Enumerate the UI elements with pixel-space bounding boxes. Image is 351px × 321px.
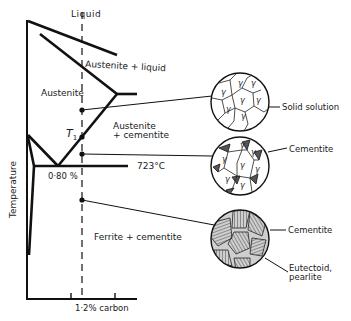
y-axis-label: Temperature (8, 161, 18, 219)
label-composition: 1·2% carbon (75, 303, 129, 313)
label-eutectoid-temperature: 723°C (137, 161, 165, 171)
label-eutectoid-composition: 0·80 % (48, 171, 78, 181)
label-austenite-liquid: Austenite + liquid (85, 59, 166, 73)
label-solid-solution: Solid solution (282, 102, 339, 112)
label-austenite-cementite-2: + cementite (113, 130, 169, 140)
label-austenite: Austenite (41, 88, 84, 98)
micrograph-pearlite: Cementite Eutectoid, pearlite (210, 210, 332, 282)
label-t1: T1 (66, 127, 77, 142)
label-liquid: Liquid (71, 9, 101, 19)
label-pearlite: pearlite (289, 272, 322, 282)
micrograph-austenite: γ γ γ γ γ γ γ Solid solution (211, 73, 339, 131)
micrograph-austenite-cementite: γ γ γ γ γ γ γ Cementite (211, 137, 333, 195)
label-cementite-1: Cementite (289, 144, 333, 154)
label-cementite-2: Cementite (288, 225, 332, 235)
label-ferrite-cementite: Ferrite + cementite (94, 232, 182, 242)
phase-diagram: Liquid Austenite + liquid Austenite Aust… (0, 0, 351, 321)
